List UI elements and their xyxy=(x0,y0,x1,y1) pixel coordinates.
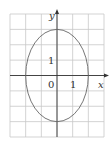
x-arrow-icon xyxy=(104,74,109,78)
y-arrow-icon xyxy=(55,9,59,14)
axes xyxy=(10,9,109,137)
y-tick-label: 1 xyxy=(48,56,54,66)
coordinate-figure xyxy=(0,0,110,145)
x-tick-label: 1 xyxy=(70,80,76,90)
origin-label: 0 xyxy=(48,80,54,90)
y-axis-label: y xyxy=(49,11,55,21)
x-axis-label: x xyxy=(98,80,104,90)
